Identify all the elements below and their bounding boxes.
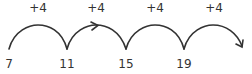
- jump-arc-1: [9, 25, 67, 49]
- jump-label: +4: [205, 2, 223, 14]
- number-label: 15: [118, 58, 133, 70]
- number-label: 7: [5, 58, 13, 70]
- number-line-diagram: +4 +4 +4 +4 7 11 15 19: [0, 0, 252, 74]
- number-label: 19: [176, 58, 191, 70]
- jump-arc-3: [126, 25, 184, 49]
- jump-label: +4: [87, 2, 105, 14]
- jump-arc-2: [67, 25, 126, 49]
- jump-label: +4: [146, 2, 164, 14]
- jump-label: +4: [29, 2, 47, 14]
- jump-arc-4: [184, 25, 242, 49]
- number-label: 11: [59, 58, 74, 70]
